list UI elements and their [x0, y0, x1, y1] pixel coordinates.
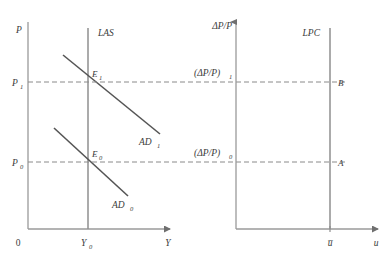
- right-panel-phillips: [236, 22, 378, 232]
- left-origin-label: 0: [16, 238, 21, 248]
- svg-text:(ΔP/P): (ΔP/P): [194, 148, 220, 159]
- left-y-tick-p0-label: P 0: [11, 158, 24, 170]
- svg-text:P: P: [11, 158, 18, 168]
- svg-text:1: 1: [20, 83, 23, 90]
- right-x-axis-label: u: [374, 238, 379, 248]
- svg-text:Y: Y: [81, 238, 88, 248]
- svg-text:E: E: [91, 69, 98, 79]
- las-curve-label: LAS: [97, 28, 114, 38]
- svg-text:(ΔP/P): (ΔP/P): [194, 68, 220, 79]
- svg-text:0: 0: [130, 205, 134, 212]
- left-y-tick-p1-label: P 1: [11, 78, 23, 90]
- left-x-tick-y0-label: Y 0: [81, 238, 93, 250]
- right-y-tick-infl1-label: (ΔP/P) 1: [194, 68, 232, 80]
- left-y-axis-label: P: [15, 25, 22, 35]
- svg-text:0: 0: [20, 163, 24, 170]
- right-x-tick-ubar-label: u̅: [328, 238, 333, 248]
- ad0-curve-label: AD 0: [111, 200, 134, 212]
- economics-two-panel-figure: P Y 0 LAS P 1 P 0 Y 0 E 1 E 0 AD 1: [0, 0, 388, 258]
- point-b-label: B: [338, 78, 344, 88]
- figure-canvas: P Y 0 LAS P 1 P 0 Y 0 E 1 E 0 AD 1: [0, 0, 388, 258]
- lpc-curve-label: LPC: [302, 28, 321, 38]
- svg-text:0: 0: [99, 154, 103, 161]
- ad1-curve-label: AD 1: [138, 137, 160, 149]
- left-panel-ad-as: [28, 22, 170, 229]
- ad1-curve-line: [63, 55, 160, 134]
- svg-text:AD: AD: [111, 200, 125, 210]
- left-x-axis-label: Y: [165, 238, 172, 248]
- cross-panel-connectors: [28, 82, 345, 162]
- svg-text:0: 0: [229, 153, 233, 160]
- right-y-tick-infl0-label: (ΔP/P) 0: [194, 148, 233, 160]
- svg-text:P: P: [11, 78, 18, 88]
- equilibrium-e0-label: E 0: [91, 149, 103, 161]
- svg-text:1: 1: [99, 74, 102, 81]
- svg-text:1: 1: [157, 142, 160, 149]
- point-a-label: A: [337, 158, 344, 168]
- svg-text:0: 0: [89, 243, 93, 250]
- svg-text:1: 1: [229, 73, 232, 80]
- right-y-axis-label: ΔP/P: [211, 21, 232, 31]
- svg-text:AD: AD: [138, 137, 152, 147]
- svg-text:E: E: [91, 149, 98, 159]
